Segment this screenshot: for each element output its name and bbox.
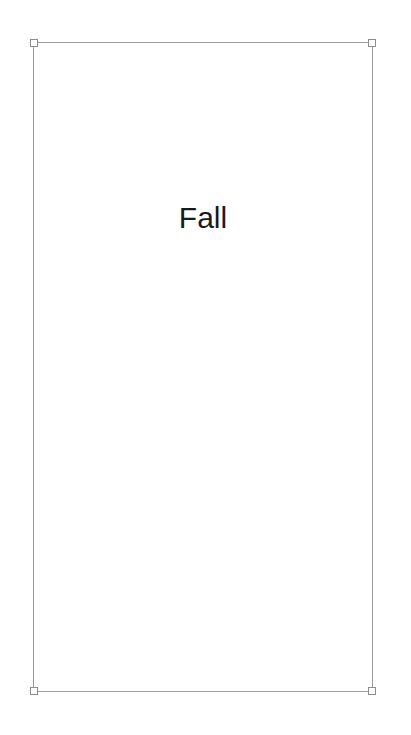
slide-canvas[interactable]: Fall [0,0,411,735]
top-right-resize-handle[interactable] [368,39,376,47]
text-frame-text: Fall [34,199,372,237]
bottom-right-resize-handle[interactable] [368,687,376,695]
text-frame-body[interactable]: Fall [34,43,372,691]
top-left-resize-handle[interactable] [30,39,38,47]
selected-text-frame[interactable]: Fall [33,42,373,692]
bottom-left-resize-handle[interactable] [30,687,38,695]
